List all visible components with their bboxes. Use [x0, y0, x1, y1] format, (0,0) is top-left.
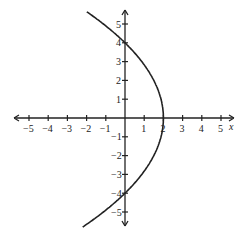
parabola-curve: [83, 12, 164, 227]
x-tick-label: −5: [23, 123, 34, 134]
x-tick-label: 5: [218, 123, 223, 134]
x-tick-label: 4: [199, 123, 204, 134]
parabola-plot: −5−4−3−2−112345−5−4−3−2−112345x: [0, 0, 246, 237]
x-axis-label: x: [228, 121, 234, 132]
x-tick-label: 1: [141, 123, 146, 134]
y-tick-label: 5: [116, 19, 121, 30]
y-tick-label: −5: [111, 207, 122, 218]
x-tick-label: −4: [42, 123, 53, 134]
y-tick-label: −2: [111, 150, 122, 161]
y-tick-label: 1: [116, 94, 121, 105]
y-tick-label: −3: [111, 169, 122, 180]
x-tick-label: −2: [81, 123, 92, 134]
y-tick-label: −1: [111, 131, 122, 142]
x-tick-label: 3: [180, 123, 185, 134]
x-tick-label: −3: [61, 123, 72, 134]
y-tick-label: 2: [116, 75, 121, 86]
y-tick-label: 3: [116, 56, 121, 67]
x-tick-label: −1: [100, 123, 111, 134]
